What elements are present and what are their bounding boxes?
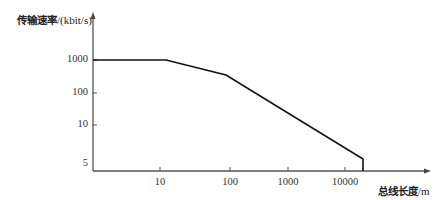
x-tick-label: 10000 xyxy=(320,176,370,187)
x-tick-label: 10 xyxy=(135,176,185,187)
y-tick-label: 10 xyxy=(48,118,88,129)
x-axis-arrow-icon xyxy=(424,169,431,174)
bus-length-vs-rate-chart: 传输速率/(kbit/s) 1000 100 10 5 10 100 1000 … xyxy=(0,0,440,200)
y-tick-label: 5 xyxy=(48,157,88,168)
x-tick-label: 100 xyxy=(205,176,255,187)
y-tick-label: 1000 xyxy=(48,53,88,64)
y-axis-label: 传输速率/(kbit/s) xyxy=(17,12,92,27)
x-axis-label: 总线长度/m xyxy=(378,183,430,198)
rate-curve xyxy=(93,60,363,171)
x-tick-label: 1000 xyxy=(263,176,313,187)
y-tick-label: 100 xyxy=(48,86,88,97)
chart-canvas xyxy=(0,0,440,200)
